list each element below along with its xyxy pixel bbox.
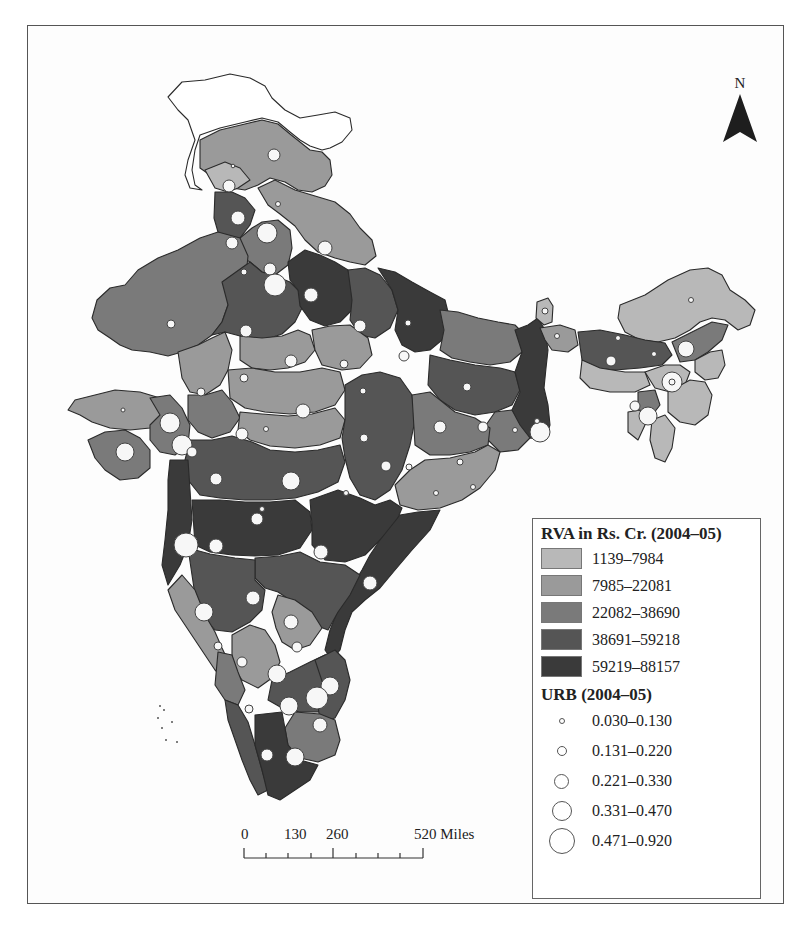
- legend-label: 0.030–0.130: [592, 712, 672, 730]
- legend-class-5: 59219–88157: [541, 653, 760, 680]
- map-legend: RVA in Rs. Cr. (2004–05) 1139–7984 7985–…: [532, 518, 761, 899]
- scale-label-260: 260: [326, 826, 349, 843]
- legend-symbol-2: 0.131–0.220: [541, 736, 760, 766]
- circle-symbol-icon: [554, 774, 569, 789]
- circle-symbol-icon: [549, 828, 575, 854]
- north-arrow: N: [712, 75, 768, 148]
- circle-symbol-icon: [552, 801, 572, 821]
- scale-bar-ruler: [238, 844, 438, 864]
- legend-swatch: [541, 548, 582, 569]
- scale-label-520: 520 Miles: [414, 826, 474, 843]
- legend-class-4: 38691–59218: [541, 626, 760, 653]
- circle-symbol-icon: [557, 746, 567, 756]
- scale-label-130: 130: [284, 826, 307, 843]
- legend-symbol-1: 0.030–0.130: [541, 706, 760, 736]
- circle-symbol-icon: [559, 718, 565, 724]
- legend-swatch: [541, 656, 582, 677]
- legend-swatch: [541, 602, 582, 623]
- legend-label: 22082–38690: [592, 604, 680, 622]
- region-maharashtra-west: [162, 460, 192, 585]
- legend-label: 0.471–0.920: [592, 832, 672, 850]
- legend-symbol-4: 0.331–0.470: [541, 796, 760, 826]
- legend-title-urb: URB (2004–05): [541, 684, 760, 706]
- scale-label-0: 0: [241, 826, 249, 843]
- legend-label: 59219–88157: [592, 658, 680, 676]
- legend-class-3: 22082–38690: [541, 599, 760, 626]
- legend-label: 1139–7984: [592, 550, 663, 568]
- legend-label: 0.331–0.470: [592, 802, 672, 820]
- scale-bar: 0 130 260 520 Miles: [238, 826, 438, 868]
- legend-swatch: [541, 575, 582, 596]
- legend-label: 0.221–0.330: [592, 772, 672, 790]
- legend-class-2: 7985–22081: [541, 572, 760, 599]
- lakshadweep-islands: [157, 705, 178, 743]
- legend-symbol-3: 0.221–0.330: [541, 766, 760, 796]
- legend-label: 7985–22081: [592, 577, 672, 595]
- legend-title-rva: RVA in Rs. Cr. (2004–05): [541, 523, 760, 545]
- region-arunachal: [618, 268, 755, 342]
- legend-label: 38691–59218: [592, 631, 680, 649]
- region-bihar: [440, 310, 525, 365]
- north-label: N: [712, 75, 768, 92]
- region-maharashtra-north: [185, 436, 345, 500]
- legend-swatch: [541, 629, 582, 650]
- legend-class-1: 1139–7984: [541, 545, 760, 572]
- north-arrow-icon: [720, 92, 760, 144]
- legend-label: 0.131–0.220: [592, 742, 672, 760]
- legend-symbol-5: 0.471–0.920: [541, 826, 760, 856]
